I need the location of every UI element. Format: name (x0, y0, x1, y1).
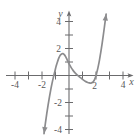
y-axis (65, 11, 73, 135)
y-tick-label-2: 2 (56, 44, 61, 54)
x-axis (6, 72, 134, 80)
cubic-function-plot: -4 -2 2 4 4 2 -2 -4 y x (0, 0, 139, 139)
y-tick-label--4: -4 (54, 125, 62, 135)
curve-group (42, 14, 108, 133)
x-tick-label--4: -4 (11, 80, 19, 90)
x-tick-label-2: 2 (92, 81, 97, 91)
x-axis-label: x (128, 76, 134, 87)
y-tick-label--2: -2 (54, 98, 62, 108)
graph-figure: -4 -2 2 4 4 2 -2 -4 y x (0, 0, 139, 139)
x-tick-label--2: -2 (38, 80, 46, 90)
x-tick-label-4: 4 (121, 80, 126, 90)
cubic-curve (44, 14, 106, 133)
y-axis-label: y (57, 8, 63, 19)
